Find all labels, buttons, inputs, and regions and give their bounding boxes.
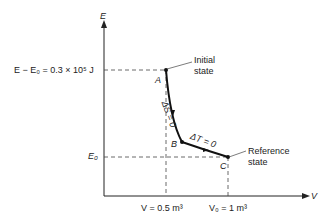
y-axis-label: E <box>100 12 106 21</box>
reference-state-line2: state <box>248 158 268 167</box>
x-tick-right: V₀ = 1 m³ <box>209 204 247 213</box>
initial-state-line1: Initial <box>194 56 215 65</box>
point-c-label: C <box>220 162 227 171</box>
y-tick-bottom: E₀ <box>88 152 98 161</box>
point-a-label: A <box>155 76 161 85</box>
x-tick-left: V = 0.5 m³ <box>141 204 183 213</box>
initial-state-line2: state <box>194 67 214 76</box>
point-b-label: B <box>171 140 177 149</box>
y-tick-top: E − E₀ = 0.3 × 10⁵ J <box>14 66 94 75</box>
x-axis-label: V <box>311 192 317 201</box>
reference-state-line1: Reference <box>248 147 290 156</box>
